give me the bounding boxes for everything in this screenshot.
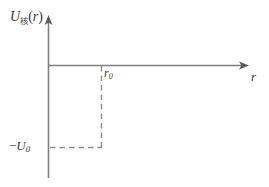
vertical-axis-label-subscript: 核 xyxy=(20,16,28,26)
r0-label-subscript: 0 xyxy=(109,72,113,81)
u0-label: −U0 xyxy=(9,139,30,154)
horizontal-axis-label: r xyxy=(251,70,256,83)
vertical-axis-label-argument: (r) xyxy=(28,9,43,24)
vertical-axis-label-main: U xyxy=(10,9,20,24)
r0-label: r0 xyxy=(104,67,113,81)
vertical-axis-label: U核(r) xyxy=(10,10,43,25)
diagram-canvas xyxy=(0,0,269,187)
u0-label-main: U xyxy=(16,138,25,153)
potential-well-diagram: U核(r) r r0 −U0 xyxy=(0,0,269,187)
u0-label-subscript: 0 xyxy=(26,144,30,154)
